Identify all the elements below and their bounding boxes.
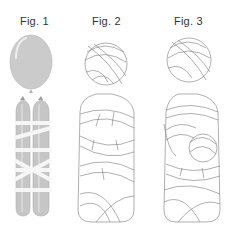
fig-2-illustration <box>78 43 134 222</box>
long-balloons <box>16 96 49 216</box>
fig-1-illustration <box>10 35 52 216</box>
figures-canvas <box>0 0 235 233</box>
round-balloon <box>10 35 52 93</box>
fig-3-illustration <box>164 38 220 222</box>
